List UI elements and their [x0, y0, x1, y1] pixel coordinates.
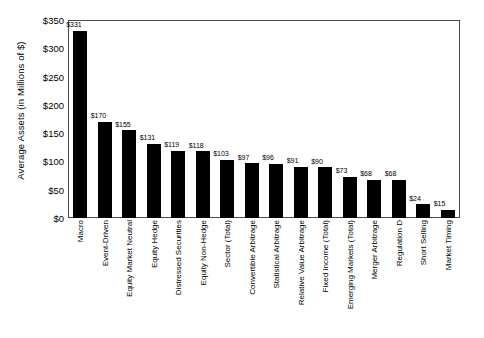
x-tick-label: Short Selling [419, 220, 428, 265]
bar[interactable] [73, 31, 87, 218]
x-tick-label: Event-Driven [100, 220, 109, 266]
bar-group[interactable]: $24 [416, 20, 430, 218]
x-tick-label: Equity Non-Hedge [198, 220, 207, 285]
bar-chart: Average Assets (in Millions of $) $0$50$… [0, 0, 484, 338]
bar-group[interactable]: $331 [73, 20, 87, 218]
x-tick-group: Fixed Income (Total) [317, 220, 333, 336]
bar-group[interactable]: $68 [367, 20, 381, 218]
y-tick-label: $300 [0, 43, 64, 54]
bar-group[interactable]: $15 [441, 20, 455, 218]
x-tick-label: Market Timing [443, 220, 452, 270]
bar[interactable] [367, 180, 381, 218]
y-tick-label: $150 [0, 128, 64, 139]
bar[interactable] [343, 177, 357, 218]
bar-group[interactable]: $119 [171, 20, 185, 218]
bar-group[interactable]: $73 [343, 20, 357, 218]
x-tick-group: Equity Non-Hedge [195, 220, 211, 336]
bar-group[interactable]: $91 [294, 20, 308, 218]
bar[interactable] [392, 180, 406, 218]
x-tick-group: Distressed Securities [170, 220, 186, 336]
bar[interactable] [220, 160, 234, 218]
x-tick-group: Sector (Total) [219, 220, 235, 336]
y-tick-label: $200 [0, 99, 64, 110]
x-tick-group: Statistical Arbitrage [268, 220, 284, 336]
y-axis-tick-labels: $0$50$100$150$200$250$300$350 [0, 0, 64, 338]
bar[interactable] [98, 122, 112, 218]
bar[interactable] [196, 151, 210, 218]
bar[interactable] [269, 164, 283, 218]
bar[interactable] [171, 151, 185, 218]
bar-group[interactable]: $155 [122, 20, 136, 218]
bars-container: $331$170$155$131$119$118$103$97$96$91$90… [68, 20, 460, 218]
x-tick-label: Distressed Securities [174, 220, 183, 295]
x-tick-group: Relative Value Arbitrage [293, 220, 309, 336]
y-tick-label: $0 [0, 213, 64, 224]
bar-group[interactable]: $170 [98, 20, 112, 218]
bar-group[interactable]: $97 [245, 20, 259, 218]
x-tick-group: Regulation D [391, 220, 407, 336]
x-tick-group: Market Timing [440, 220, 456, 336]
x-tick-label: Fixed Income (Total) [321, 220, 330, 292]
x-tick-group: Equity Hedge [146, 220, 162, 336]
x-tick-label: Equity Hedge [149, 220, 158, 268]
x-tick-label: Convertible Arbitrage [247, 220, 256, 295]
bar-group[interactable]: $90 [318, 20, 332, 218]
x-axis-category-labels: MacroEvent-DrivenEquity Market NeutralEq… [68, 220, 460, 338]
bar[interactable] [416, 204, 430, 218]
x-tick-group: Short Selling [415, 220, 431, 336]
bar[interactable] [294, 167, 308, 218]
x-tick-label: Sector (Total) [223, 220, 232, 268]
bar[interactable] [441, 210, 455, 218]
bar-group[interactable]: $103 [220, 20, 234, 218]
x-tick-label: Macro [76, 220, 85, 242]
x-tick-label: Relative Value Arbitrage [296, 220, 305, 305]
x-tick-label: Statistical Arbitrage [272, 220, 281, 288]
x-tick-label: Equity Market Neutral [125, 220, 134, 297]
bar[interactable] [147, 144, 161, 218]
x-tick-group: Event-Driven [97, 220, 113, 336]
bar-group[interactable]: $118 [196, 20, 210, 218]
x-tick-label: Emerging Markets (Total) [345, 220, 354, 309]
y-tick-label: $250 [0, 71, 64, 82]
bar-value-label: $15 [434, 200, 470, 208]
bar-group[interactable]: $68 [392, 20, 406, 218]
bar[interactable] [245, 163, 259, 218]
bar[interactable] [318, 167, 332, 218]
x-tick-group: Macro [72, 220, 88, 336]
bar-group[interactable]: $131 [147, 20, 161, 218]
x-tick-label: Regulation D [394, 220, 403, 266]
x-tick-group: Equity Market Neutral [121, 220, 137, 336]
x-tick-label: Merger Arbitrage [370, 220, 379, 280]
x-tick-group: Convertible Arbitrage [244, 220, 260, 336]
y-tick-label: $350 [0, 15, 64, 26]
x-tick-group: Emerging Markets (Total) [342, 220, 358, 336]
x-tick-group: Merger Arbitrage [366, 220, 382, 336]
bar-group[interactable]: $96 [269, 20, 283, 218]
bar[interactable] [122, 130, 136, 218]
y-tick-label: $50 [0, 184, 64, 195]
y-tick-label: $100 [0, 156, 64, 167]
